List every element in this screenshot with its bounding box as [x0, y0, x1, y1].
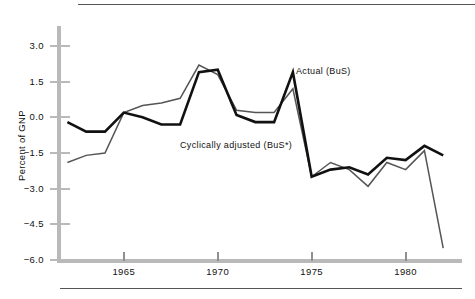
series-label-actual: Actual (BuS) — [296, 66, 351, 76]
line-chart: 3.01.50.0−1.5−3.0−4.5−6.0 Percent of GNP… — [0, 0, 475, 299]
series-label-cyclically-adjusted: Cyclically adjusted (BuS*) — [180, 140, 292, 150]
series-line — [67, 70, 443, 177]
